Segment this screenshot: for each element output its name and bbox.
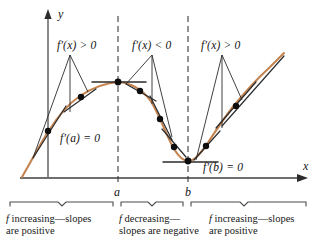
caption-right: f increasing—slopes are positive xyxy=(209,213,324,238)
tangent-segment-8 xyxy=(222,56,284,126)
x-tick-label-b: b xyxy=(185,186,191,198)
tangent-points-group xyxy=(45,79,239,165)
annotation-deriv-pos-left: f′(x) > 0 xyxy=(57,40,97,52)
interval-brackets-group xyxy=(10,202,306,206)
leader-left-2 xyxy=(70,55,88,92)
x-axis-label: x xyxy=(303,160,308,172)
annotation-deriv-zero-a: f′(a) = 0 xyxy=(60,133,100,145)
leader-right xyxy=(196,55,222,160)
y-axis-label: y xyxy=(58,8,63,20)
bracket-middle xyxy=(121,202,183,206)
tangent-lines-group xyxy=(33,56,284,162)
function-curve xyxy=(22,53,284,177)
y-axis-arrowhead xyxy=(44,9,51,19)
tangent-point xyxy=(45,128,51,134)
caption-left-line2: are positive xyxy=(6,225,55,236)
tangent-point xyxy=(78,94,84,100)
leader-right-2 xyxy=(222,55,242,100)
tangent-segment-2 xyxy=(64,89,96,112)
function-curve-group xyxy=(22,53,284,177)
tangent-point xyxy=(203,143,209,149)
figure-canvas: y x a b f′(x) > 0 f′(x) < 0 f′(x) > 0 f′… xyxy=(0,0,328,244)
tangent-point xyxy=(137,88,143,94)
plot-svg xyxy=(0,0,328,244)
axes-group xyxy=(20,9,308,182)
x-tick-label-a: a xyxy=(114,186,120,198)
tangent-point xyxy=(171,144,177,150)
caption-middle: f decreasing— slopes are negative xyxy=(119,213,205,238)
caption-middle-line1: decreasing— xyxy=(122,213,180,224)
annotation-deriv-neg-mid: f′(x) < 0 xyxy=(132,40,172,52)
tangent-point xyxy=(185,158,192,165)
caption-right-line1: increasing—slopes xyxy=(212,213,295,224)
caption-left: f increasing—slopes are positive xyxy=(6,213,118,238)
tangent-point xyxy=(115,79,122,86)
caption-left-line1: increasing—slopes xyxy=(9,213,92,224)
x-axis-arrowhead xyxy=(297,174,308,182)
bracket-left xyxy=(10,202,113,206)
annotation-deriv-zero-b: f′(b) = 0 xyxy=(203,162,243,174)
tangent-point xyxy=(233,103,239,109)
caption-middle-line2: slopes are negative xyxy=(119,225,199,236)
tangent-segment-5 xyxy=(162,129,186,157)
annotation-deriv-pos-right: f′(x) > 0 xyxy=(201,40,241,52)
caption-right-line2: are positive xyxy=(209,225,258,236)
tangent-point xyxy=(157,116,163,122)
bracket-right xyxy=(191,202,306,206)
